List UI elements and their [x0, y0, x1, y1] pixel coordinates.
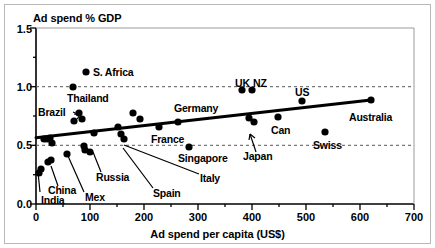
data-point — [63, 150, 70, 157]
point-label-russia: Russia — [96, 171, 129, 183]
point-label-india: India — [41, 194, 65, 206]
data-point — [48, 139, 55, 146]
point-label-mex: Mex — [85, 191, 105, 203]
data-point — [82, 68, 89, 75]
data-point — [37, 165, 44, 172]
data-point — [274, 113, 281, 120]
point-label-brazil: Brazil — [38, 106, 65, 118]
point-label-singapore: Singapore — [178, 152, 228, 164]
data-point — [321, 128, 328, 135]
point-label-australia: Australia — [349, 111, 392, 123]
data-point — [120, 135, 127, 142]
point-label-germany: Germany — [174, 102, 218, 114]
plot-area — [0, 0, 435, 248]
data-point — [298, 97, 305, 104]
point-label-spain: Spain — [153, 187, 181, 199]
data-point — [174, 118, 181, 125]
point-label-nz: NZ — [253, 77, 267, 89]
point-label-swiss: Swiss — [313, 139, 342, 151]
data-point — [129, 109, 136, 116]
point-label-thailand: Thailand — [67, 92, 109, 104]
data-point — [69, 83, 76, 90]
point-label-japan: Japan — [243, 150, 272, 162]
chart-figure: Ad spend % GDP Ad spend per capita (US$)… — [0, 0, 435, 248]
data-point — [155, 123, 162, 130]
data-point — [86, 148, 93, 155]
point-label-us: US — [295, 86, 309, 98]
data-point — [78, 115, 85, 122]
data-point — [367, 96, 374, 103]
data-point — [136, 115, 143, 122]
data-point — [245, 114, 252, 121]
point-label-uk: UK — [235, 77, 250, 89]
data-point — [90, 129, 97, 136]
data-point — [70, 117, 77, 124]
point-label-can: Can — [271, 124, 290, 136]
point-label-italy: Italy — [200, 172, 220, 184]
point-label-s-africa: S. Africa — [93, 66, 133, 78]
point-label-france: France — [151, 133, 184, 145]
data-point — [47, 156, 54, 163]
data-point — [114, 123, 121, 130]
data-point — [185, 143, 192, 150]
